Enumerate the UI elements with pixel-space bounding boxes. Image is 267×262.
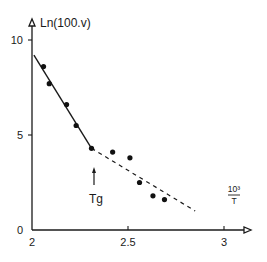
fit-above-Tg-line <box>34 55 92 148</box>
data-point <box>47 81 52 86</box>
x-tick-label: 2.5 <box>120 236 135 248</box>
data-point <box>137 180 142 185</box>
tg-arrow-icon <box>92 167 96 173</box>
x-tick-label: 3 <box>221 236 227 248</box>
data-point <box>127 155 132 160</box>
tg-label: Tg <box>89 192 103 206</box>
y-tick-label: 10 <box>11 34 23 46</box>
axes <box>29 19 251 233</box>
y-tick-label: 0 <box>17 224 23 236</box>
data-points <box>41 64 167 202</box>
x-axis-label-denominator: T <box>231 196 236 206</box>
y-tick-label: 5 <box>17 129 23 141</box>
data-point <box>89 146 94 151</box>
y-axis-arrow-icon <box>29 19 35 26</box>
x-axis-label-numerator: 10³ <box>228 184 240 194</box>
data-point <box>41 64 46 69</box>
data-point <box>150 193 155 198</box>
x-tick-label: 2 <box>29 236 35 248</box>
data-point <box>162 197 167 202</box>
x-axis-arrow-icon <box>244 227 251 233</box>
fit-lines <box>34 55 195 211</box>
data-point <box>110 150 115 155</box>
chart: 22.530510 Tg Ln(100.v) 10³ T <box>0 0 267 262</box>
x-axis-label: 10³ T <box>228 184 240 206</box>
ticks <box>28 40 224 230</box>
y-axis-label: Ln(100.v) <box>40 16 91 30</box>
tg-annotation: Tg <box>89 167 103 206</box>
data-point <box>74 123 79 128</box>
data-point <box>64 102 69 107</box>
fit-below-Tg-line <box>92 148 196 211</box>
